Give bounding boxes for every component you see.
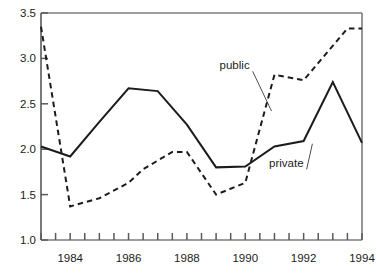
series-label-public: public bbox=[220, 59, 250, 71]
line-chart: 1.01.52.02.53.03.5 198419861988199019921… bbox=[0, 0, 376, 278]
series-label-private: private bbox=[269, 157, 304, 169]
x-tick-label: 1986 bbox=[116, 252, 142, 264]
data-series-group bbox=[41, 27, 362, 207]
leader-line-private bbox=[307, 144, 313, 170]
y-tick-label: 1.0 bbox=[20, 234, 36, 246]
x-axis-ticks bbox=[41, 233, 362, 240]
x-tick-label: 1994 bbox=[349, 252, 375, 264]
plot-frame bbox=[41, 13, 362, 240]
x-tick-label: 1984 bbox=[57, 252, 83, 264]
y-tick-label: 2.5 bbox=[20, 98, 36, 110]
y-tick-label: 1.5 bbox=[20, 189, 36, 201]
series-line-public bbox=[41, 27, 362, 207]
y-tick-label: 3.0 bbox=[20, 52, 36, 64]
x-tick-label: 1992 bbox=[291, 252, 317, 264]
y-tick-label: 2.0 bbox=[20, 143, 36, 155]
leader-line-public bbox=[253, 71, 272, 111]
x-tick-label: 1988 bbox=[174, 252, 200, 264]
x-tick-label: 1990 bbox=[232, 252, 258, 264]
x-axis-tick-labels: 198419861988199019921994 bbox=[57, 252, 375, 264]
y-axis-tick-labels: 1.01.52.02.53.03.5 bbox=[20, 7, 36, 246]
y-tick-label: 3.5 bbox=[20, 7, 36, 19]
chart-svg: 1.01.52.02.53.03.5 198419861988199019921… bbox=[0, 0, 376, 278]
series-line-private bbox=[41, 82, 362, 167]
